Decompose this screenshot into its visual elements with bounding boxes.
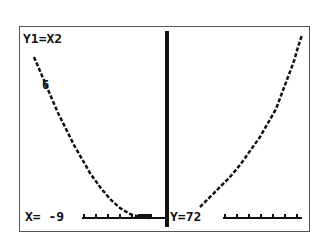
parabola-right [200, 35, 302, 207]
y-axis [165, 31, 169, 227]
trace-cursor [138, 214, 152, 218]
graph-screen: Y1=X2 6 X= -9 Y=72 [19, 26, 310, 232]
trace-marker: 6 [42, 79, 49, 92]
cursor-y-readout: Y=72 [170, 210, 201, 223]
cursor-x-readout: X= -9 [25, 210, 64, 223]
graph-canvas [20, 27, 311, 233]
function-label: Y1=X2 [23, 32, 62, 45]
parabola-left [34, 57, 150, 218]
x-axis-right [223, 214, 302, 218]
x-axis-left [82, 214, 165, 218]
